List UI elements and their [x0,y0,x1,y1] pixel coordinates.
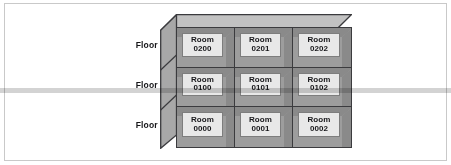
room-cell[interactable]: Room 0202 [293,28,351,68]
room-cell[interactable]: Room 0002 [293,107,351,147]
room-cell[interactable]: Room 0201 [235,28,293,68]
room-number: 0002 [310,125,328,134]
room-cell[interactable]: Room 0102 [293,68,351,108]
room-cell[interactable]: Room 0200 [177,28,235,68]
room-panel: Room 0002 [298,112,340,137]
room-number: 0202 [310,45,328,54]
room-panel: Room 0202 [298,33,340,57]
room-number: 0102 [310,84,328,93]
figure-container: Floor 02 Floor 01 Floor 00 [0,0,451,165]
room-cell[interactable]: Room 0000 [177,107,235,147]
room-number: 0000 [193,125,211,134]
room-panel: Room 0101 [240,73,281,97]
building-diagram: Floor 02 Floor 01 Floor 00 [0,0,451,165]
room-panel: Room 0000 [182,112,223,137]
room-panel: Room 0201 [240,33,281,57]
room-panel: Room 0200 [182,33,223,57]
room-panel: Room 0001 [240,112,281,137]
room-number: 0100 [193,84,211,93]
room-cell[interactable]: Room 0001 [235,107,293,147]
room-grid: Room 0200 Room 0201 [176,27,352,148]
room-panel: Room 0100 [182,73,223,97]
room-cell[interactable]: Room 0100 [177,68,235,108]
room-number: 0200 [193,45,211,54]
room-number: 0201 [251,45,269,54]
room-number: 0001 [251,125,269,134]
room-number: 0101 [251,84,269,93]
building-block: Room 0200 Room 0201 [160,14,352,148]
room-panel: Room 0102 [298,73,340,97]
room-cell[interactable]: Room 0101 [235,68,293,108]
